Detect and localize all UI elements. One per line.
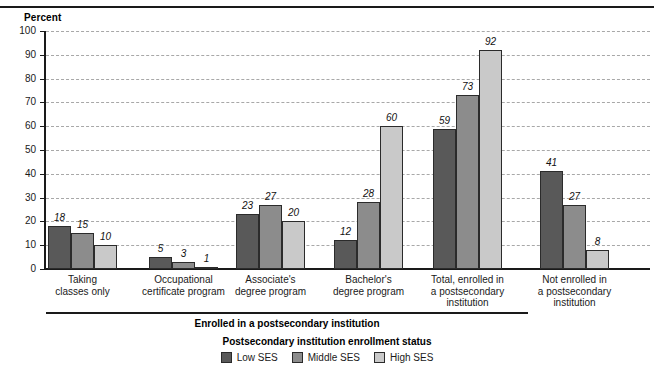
x-axis-category-label: Associate'sdegree program [216, 274, 326, 297]
bar-value-label: 60 [377, 112, 407, 123]
x-axis-category-label: Bachelor'sdegree program [314, 274, 424, 297]
legend-item[interactable]: Low SES [221, 352, 278, 363]
legend-label: Middle SES [308, 352, 360, 363]
bar [94, 245, 117, 269]
x-axis-category-label-line: Not enrolled in [520, 274, 630, 286]
y-axis-tick-label: 30 [2, 192, 36, 203]
y-axis-tick-mark [40, 269, 46, 270]
bar-value-label: 23 [233, 200, 263, 211]
x-axis-category-label-line: degree program [216, 286, 326, 298]
legend-label: High SES [390, 352, 433, 363]
x-axis-category-label-line: Total, enrolled in [413, 274, 523, 286]
bar-value-label: 73 [453, 81, 483, 92]
x-axis-category-label-line: Bachelor's [314, 274, 424, 286]
y-axis-tick-label: 40 [2, 168, 36, 179]
bar-chart-figure: Percent 1009080706050403020100 181510531… [0, 0, 654, 368]
bar-value-label: 8 [583, 236, 613, 247]
x-axis-category-label-line: a postsecondary [520, 286, 630, 298]
x-axis-category-label: Not enrolled ina postsecondaryinstitutio… [520, 274, 630, 309]
legend-swatch-icon [374, 352, 385, 363]
legend-swatch-icon [292, 352, 303, 363]
y-axis-tick-label: 90 [2, 49, 36, 60]
bar [456, 95, 479, 269]
bar-value-label: 1 [192, 253, 222, 264]
y-axis-title: Percent [24, 12, 61, 23]
bar [236, 214, 259, 269]
legend-label: Low SES [237, 352, 278, 363]
top-divider-rule [0, 6, 654, 8]
x-axis-category-label-line: degree program [314, 286, 424, 298]
x-axis-category-label-line: a postsecondary [413, 286, 523, 298]
group-bracket-line [46, 312, 528, 314]
y-axis-tick-label: 80 [2, 73, 36, 84]
y-axis-tick-label: 50 [2, 144, 36, 155]
x-axis-category-label-line: institution [520, 297, 630, 309]
bar-value-label: 12 [331, 226, 361, 237]
group-bracket-label: Enrolled in a postsecondary institution [46, 318, 528, 329]
bar [433, 129, 456, 269]
x-axis-category-label-line: Associate's [216, 274, 326, 286]
bar [334, 240, 357, 269]
y-axis-tick-label: 20 [2, 215, 36, 226]
bar-value-label: 20 [279, 207, 309, 218]
plot-area: 18151053123272012286059739241278 [46, 31, 650, 269]
bar [479, 50, 502, 269]
bar [149, 257, 172, 269]
bar-value-label: 41 [537, 157, 567, 168]
bar-value-label: 92 [476, 36, 506, 47]
bar [282, 221, 305, 269]
legend-item[interactable]: High SES [374, 352, 433, 363]
bar-value-label: 28 [354, 188, 384, 199]
bar-value-label: 27 [256, 191, 286, 202]
x-axis-category-label-line: Taking [28, 274, 138, 286]
legend-title: Postsecondary institution enrollment sta… [0, 336, 654, 347]
bar-value-label: 10 [91, 231, 121, 242]
y-axis-tick-label: 60 [2, 120, 36, 131]
y-axis-tick-label: 70 [2, 96, 36, 107]
bar [48, 226, 71, 269]
bar [357, 202, 380, 269]
y-axis-tick-label: 10 [2, 239, 36, 250]
y-axis-tick-label: 0 [2, 263, 36, 274]
x-axis-category-label-line: institution [413, 297, 523, 309]
y-axis-tick-label: 100 [2, 25, 36, 36]
bar-value-label: 27 [560, 191, 590, 202]
bar [195, 267, 218, 269]
bar [380, 126, 403, 269]
x-axis-category-label: Takingclasses only [28, 274, 138, 297]
x-axis-category-label-line: classes only [28, 286, 138, 298]
legend-item[interactable]: Middle SES [292, 352, 360, 363]
legend-swatch-icon [221, 352, 232, 363]
bar [586, 250, 609, 269]
bar-value-label: 15 [68, 219, 98, 230]
bar [540, 171, 563, 269]
legend: Low SESMiddle SESHigh SES [0, 352, 654, 363]
x-axis-category-label: Total, enrolled ina postsecondaryinstitu… [413, 274, 523, 309]
bar-value-label: 59 [430, 115, 460, 126]
